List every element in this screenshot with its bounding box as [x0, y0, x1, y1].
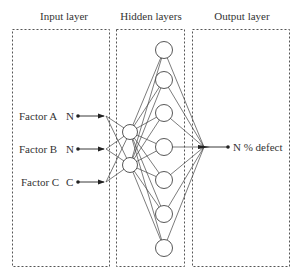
neural-network-diagram: Input layer Hidden layers Output layer — [0, 0, 300, 277]
hidden2-node — [156, 72, 173, 89]
factor-a-label: Factor A — [19, 110, 57, 122]
factor-a-type: N — [66, 110, 74, 122]
input-factor-a: Factor A N — [19, 110, 104, 122]
hidden2-node — [156, 42, 173, 59]
input-layer-title: Input layer — [40, 10, 88, 22]
factor-b-label: Factor B — [19, 143, 57, 155]
hidden-layers-title: Hidden layers — [120, 10, 181, 22]
output-dot-icon — [226, 145, 230, 149]
hidden2-node — [156, 105, 173, 122]
factor-b-type: N — [66, 143, 74, 155]
output-label: N % defect — [233, 141, 282, 153]
factor-c-type: C — [66, 176, 73, 188]
factor-c-label: Factor C — [21, 176, 59, 188]
hidden2-node — [156, 139, 173, 156]
output-node: N % defect — [198, 141, 282, 153]
hidden1-node — [123, 158, 138, 173]
hidden2-node — [156, 240, 173, 257]
hidden2-node — [156, 206, 173, 223]
hidden-layers-box — [117, 30, 185, 267]
hidden-layer-1 — [123, 125, 138, 173]
input-factor-b: Factor B N — [19, 143, 104, 155]
hidden2-node — [156, 172, 173, 189]
output-layer-title: Output layer — [214, 10, 270, 22]
hidden-layer-2 — [156, 42, 173, 257]
input-factor-c: Factor C C — [21, 176, 104, 188]
hidden1-node — [123, 125, 138, 140]
